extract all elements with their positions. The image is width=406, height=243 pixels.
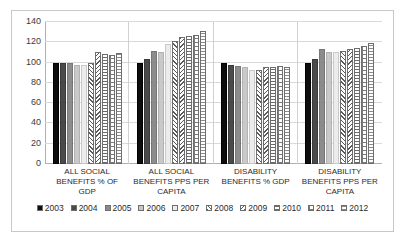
legend-swatch-icon — [71, 205, 77, 211]
bar[interactable] — [144, 59, 150, 164]
legend-swatch-icon — [37, 205, 43, 211]
bar[interactable] — [53, 63, 59, 164]
legend-swatch-icon — [240, 205, 246, 211]
bar[interactable] — [361, 46, 367, 164]
category-axis-labels: ALL SOCIAL BENEFITS % OF GDPALL SOCIAL B… — [45, 167, 382, 197]
plot-area: 020406080100120140 — [45, 22, 382, 164]
bar[interactable] — [158, 52, 164, 164]
bar[interactable] — [193, 35, 199, 164]
legend-item[interactable]: 2003 — [37, 204, 64, 213]
bar[interactable] — [228, 65, 234, 164]
bar-group — [298, 22, 382, 164]
bar[interactable] — [165, 44, 171, 164]
legend-label: 2009 — [248, 204, 267, 213]
bar[interactable] — [284, 67, 290, 164]
legend-item[interactable]: 2011 — [308, 204, 334, 213]
bar[interactable] — [340, 51, 346, 164]
legend-item[interactable]: 2007 — [172, 204, 199, 213]
legend-item[interactable]: 2010 — [274, 204, 301, 213]
bar[interactable] — [312, 59, 318, 164]
bar-group — [45, 22, 129, 164]
bar[interactable] — [326, 52, 332, 164]
bar[interactable] — [109, 55, 115, 164]
y-axis-tick-label: 40 — [31, 118, 41, 127]
category-label: DISABILITY BENEFITS PPS PER CAPITA — [298, 167, 382, 197]
bar[interactable] — [67, 63, 73, 164]
y-axis-tick-label: 60 — [31, 98, 41, 107]
bar[interactable] — [151, 51, 157, 164]
category-label: DISABILITY BENEFITS % GDP — [214, 167, 298, 197]
bar[interactable] — [242, 67, 248, 164]
legend-swatch-icon — [274, 205, 280, 211]
legend-item[interactable]: 2006 — [138, 204, 165, 213]
legend-label: 2005 — [113, 204, 132, 213]
bar[interactable] — [74, 65, 80, 164]
bar[interactable] — [256, 70, 262, 164]
bar[interactable] — [81, 65, 87, 164]
bar[interactable] — [270, 67, 276, 164]
y-axis-tick-label: 100 — [26, 57, 41, 66]
bar[interactable] — [172, 41, 178, 164]
bar[interactable] — [221, 63, 227, 164]
bar[interactable] — [186, 36, 192, 164]
bar[interactable] — [60, 63, 66, 164]
y-axis-tick-label: 20 — [31, 138, 41, 147]
legend-label: 2008 — [214, 204, 233, 213]
bar[interactable] — [88, 63, 94, 164]
y-axis-tick-label: 0 — [36, 159, 41, 168]
y-axis-tick-label: 120 — [26, 37, 41, 46]
y-axis-tick-label: 80 — [31, 77, 41, 86]
legend-item[interactable]: 2005 — [105, 204, 132, 213]
bar[interactable] — [263, 67, 269, 164]
legend-label: 2004 — [79, 204, 98, 213]
legend-swatch-icon — [105, 205, 111, 211]
bar[interactable] — [102, 54, 108, 164]
bar[interactable] — [95, 52, 101, 164]
category-label: ALL SOCIAL BENEFITS % OF GDP — [45, 167, 129, 197]
bar[interactable] — [319, 49, 325, 164]
bar[interactable] — [305, 63, 311, 164]
chart-container: 020406080100120140 ALL SOCIAL BENEFITS %… — [11, 10, 394, 232]
legend-item[interactable]: 2009 — [240, 204, 267, 213]
legend-item[interactable]: 2008 — [206, 204, 233, 213]
legend-label: 2011 — [316, 204, 334, 213]
bar-groups — [45, 22, 382, 164]
legend-label: 2003 — [45, 204, 64, 213]
bar[interactable] — [277, 66, 283, 164]
bar[interactable] — [347, 49, 353, 164]
bar[interactable] — [368, 43, 374, 164]
legend-item[interactable]: 2004 — [71, 204, 98, 213]
category-label: ALL SOCIAL BENEFITS PPS PER CAPITA — [129, 167, 213, 197]
legend-swatch-icon — [206, 205, 212, 211]
legend-swatch-icon — [138, 205, 144, 211]
legend-swatch-icon — [172, 205, 178, 211]
legend-label: 2012 — [349, 204, 368, 213]
bar[interactable] — [200, 31, 206, 164]
bar-group — [214, 22, 298, 164]
legend-swatch-icon — [341, 205, 347, 211]
bar[interactable] — [116, 53, 122, 164]
bar-group — [129, 22, 213, 164]
bar[interactable] — [249, 70, 255, 164]
bar[interactable] — [235, 66, 241, 164]
legend-label: 2010 — [282, 204, 301, 213]
chart-legend: 2003200420052006200720082009201020112012 — [12, 204, 393, 213]
bar[interactable] — [179, 37, 185, 164]
legend-item[interactable]: 2012 — [341, 204, 368, 213]
y-axis-tick-label: 140 — [26, 17, 41, 26]
bar[interactable] — [354, 48, 360, 164]
bar[interactable] — [333, 52, 339, 164]
bar[interactable] — [137, 63, 143, 164]
legend-label: 2007 — [180, 204, 199, 213]
legend-label: 2006 — [146, 204, 165, 213]
legend-swatch-icon — [308, 205, 314, 211]
